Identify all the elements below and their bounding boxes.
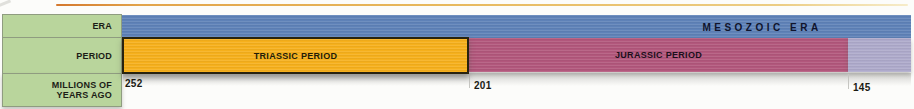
row-label-mya-line1: MILLIONS OF — [52, 80, 112, 90]
mya-value-252: 252 — [125, 78, 143, 89]
row-label-millions-of-years-ago: MILLIONS OF YEARS AGO — [2, 73, 122, 107]
tick-201 — [469, 74, 470, 88]
row-label-period: PERIOD — [2, 37, 122, 74]
next-period-bar — [848, 38, 911, 72]
row-label-era-text: ERA — [92, 21, 112, 31]
mesozoic-era-bar: MESOZOIC ERA — [122, 15, 911, 38]
tick-145 — [848, 74, 849, 89]
mya-value-201: 201 — [474, 80, 492, 91]
row-label-period-text: PERIOD — [76, 51, 112, 61]
triassic-period-bar: TRIASSIC PERIOD — [122, 37, 469, 74]
jurassic-period-label: JURASSIC PERIOD — [615, 50, 702, 60]
jurassic-period-bar: JURASSIC PERIOD — [469, 38, 848, 72]
mya-value-145: 145 — [853, 82, 871, 93]
geologic-timeline: ERA PERIOD MILLIONS OF YEARS AGO MESOZOI… — [0, 0, 914, 109]
mesozoic-era-label: MESOZOIC ERA — [702, 21, 821, 32]
bar-drop-shadow — [123, 73, 911, 86]
row-label-mya-line2: YEARS AGO — [57, 90, 112, 100]
top-accent-line — [56, 4, 908, 6]
corner-artifact — [0, 0, 11, 8]
triassic-period-label: TRIASSIC PERIOD — [254, 51, 338, 61]
row-label-era: ERA — [2, 14, 122, 38]
